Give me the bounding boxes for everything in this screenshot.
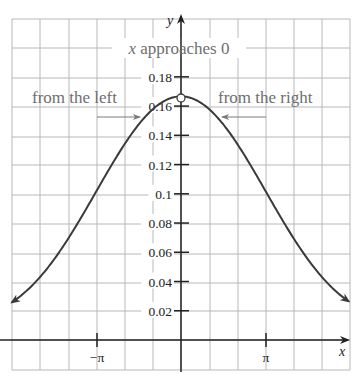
function-curve-right [181, 96, 349, 301]
y-tick-label: 0.16 [148, 99, 172, 114]
y-tick-label: 0.08 [148, 216, 172, 231]
x-tick-label-neg-pi: −π [90, 350, 105, 365]
from-left-label: from the left [32, 88, 117, 107]
approaches-text: approaches 0 [136, 39, 229, 58]
y-tick-label: 0.04 [148, 275, 172, 290]
x-tick-label-pos-pi: π [263, 350, 270, 365]
y-tick-label: 0.06 [148, 245, 172, 260]
x-axis-label: x [338, 344, 346, 359]
limit-chart: x y 0.020.040.060.080.10.120.140.160.18 … [0, 0, 356, 378]
y-tick-label: 0.14 [148, 128, 172, 143]
y-tick-label: 0.12 [148, 158, 172, 173]
y-tick-label: 0.02 [148, 304, 172, 319]
y-tick-label: 0.18 [148, 70, 172, 85]
from-right-label: from the right [218, 88, 313, 107]
y-tick-label: 0.1 [155, 187, 172, 202]
x-ticks: −π π [90, 333, 270, 365]
y-ticks: 0.020.040.060.080.10.120.140.160.18 [141, 68, 189, 319]
open-circle-hole [177, 94, 185, 102]
y-axis-label: y [165, 13, 174, 28]
approaches-label: x approaches 0 [127, 39, 229, 58]
